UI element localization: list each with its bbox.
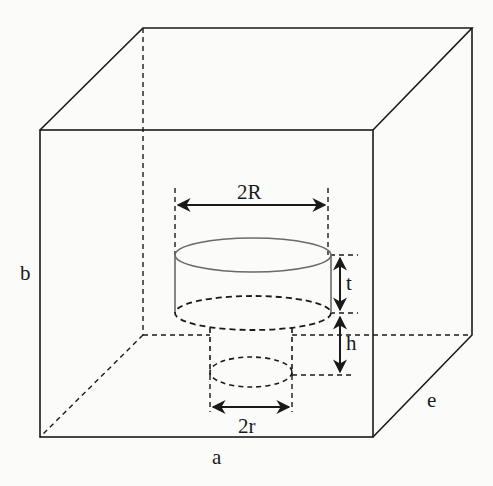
small-cylinder — [210, 328, 292, 387]
right-face-edges — [373, 28, 472, 437]
dimension-arrows — [178, 205, 340, 407]
label-2R: 2R — [237, 182, 262, 203]
diagram-canvas: 2R 2r t h a b e — [0, 0, 493, 486]
top-face-edges — [40, 28, 472, 130]
label-h: h — [346, 333, 357, 354]
label-2r: 2r — [238, 416, 256, 437]
hidden-edges — [40, 28, 472, 437]
label-t: t — [346, 273, 352, 294]
label-a: a — [212, 447, 221, 468]
front-face — [40, 130, 373, 437]
label-b: b — [20, 263, 31, 284]
large-cylinder — [175, 238, 331, 330]
label-e: e — [427, 390, 436, 411]
